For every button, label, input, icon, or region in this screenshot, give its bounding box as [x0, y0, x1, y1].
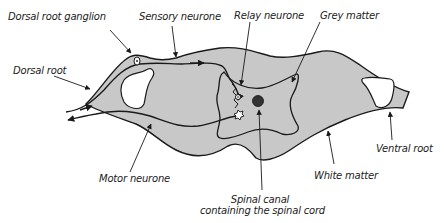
label-white-matter: White matter — [314, 170, 378, 181]
label-spinal-canal: Spinal canal containing the spinal cord — [200, 194, 320, 216]
label-relay-neurone: Relay neurone — [234, 10, 304, 21]
label-dorsal-root-ganglion: Dorsal root ganglion — [8, 11, 106, 22]
label-spinal-canal-line1: Spinal canal — [200, 194, 320, 205]
label-spinal-canal-line2: containing the spinal cord — [200, 205, 320, 216]
label-sensory-neurone: Sensory neurone — [139, 11, 221, 22]
spinal-cord-diagram — [0, 0, 444, 223]
label-dorsal-root: Dorsal root — [13, 65, 66, 76]
label-motor-neurone: Motor neurone — [99, 173, 170, 184]
spinal-canal — [253, 96, 264, 107]
label-ventral-root: Ventral root — [376, 143, 433, 154]
label-grey-matter: Grey matter — [320, 10, 379, 21]
